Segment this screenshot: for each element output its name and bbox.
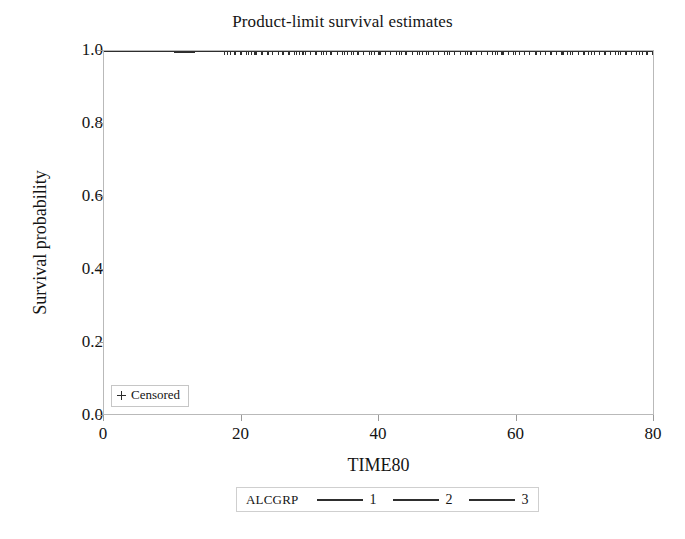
censored-legend-label: Censored	[131, 388, 180, 403]
legend-line-swatch	[393, 499, 439, 501]
plot-area: Censored	[103, 50, 654, 415]
plus-marker-icon	[117, 391, 126, 400]
x-tick-label: 0	[78, 424, 128, 444]
legend-entry-label: 2	[446, 492, 453, 508]
x-tick-label: 20	[216, 424, 266, 444]
y-axis-label: Survival probability	[30, 48, 51, 438]
survival-curves	[104, 51, 653, 414]
group-legend-entries: 123	[317, 492, 529, 508]
legend-line-swatch	[317, 499, 363, 501]
x-axis-ticks: 020406080	[103, 415, 654, 451]
page-title: Product-limit survival estimates	[0, 12, 685, 32]
x-tick-mark	[516, 415, 517, 421]
x-tick-mark	[653, 415, 654, 421]
legend-line-swatch	[469, 499, 515, 501]
legend-entry[interactable]: 1	[317, 492, 377, 508]
legend-entry-label: 3	[522, 492, 529, 508]
x-tick-mark	[378, 415, 379, 421]
x-tick-mark	[241, 415, 242, 421]
survival-plot-figure: Product-limit survival estimates Surviva…	[0, 0, 685, 539]
x-tick-label: 60	[491, 424, 541, 444]
legend-entry[interactable]: 3	[469, 492, 529, 508]
censored-legend: Censored	[111, 385, 189, 407]
x-axis-label: TIME80	[103, 455, 654, 476]
legend-entry-label: 1	[370, 492, 377, 508]
group-legend-title: ALCGRP	[246, 492, 299, 508]
x-tick-label: 80	[628, 424, 678, 444]
x-tick-label: 40	[353, 424, 403, 444]
x-tick-mark	[103, 415, 104, 421]
y-axis-ticks: 0.00.20.40.60.81.0	[52, 50, 103, 415]
group-legend: ALCGRP 123	[236, 487, 539, 512]
legend-entry[interactable]: 2	[393, 492, 453, 508]
